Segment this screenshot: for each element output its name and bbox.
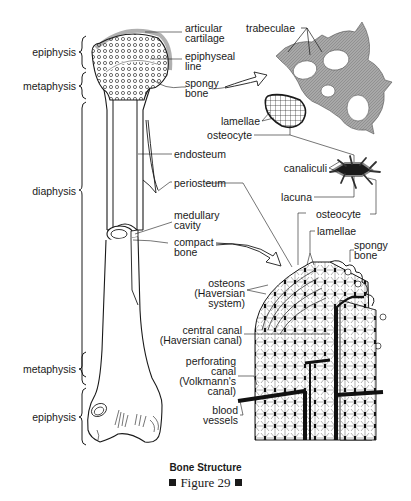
region-braces	[79, 36, 86, 445]
figure-number-label: Figure 29	[180, 475, 230, 490]
label-perforating-canal: perforating canal (Volkmann's canal)	[170, 356, 236, 396]
label-epiphyseal-line: epiphyseal line	[185, 51, 235, 71]
label-periosteum: periosteum	[174, 178, 226, 188]
label-metaphysis-bottom: metaphysis	[10, 364, 76, 374]
figure-number: Figure 29	[0, 475, 411, 491]
compact-bone-detail	[205, 183, 386, 440]
label-central-canal: central canal (Haversian canal)	[150, 325, 242, 345]
label-diaphysis: diaphysis	[20, 186, 76, 196]
label-osteocyte-spongy: osteocyte	[190, 130, 252, 140]
figure-title: Bone Structure	[0, 462, 411, 473]
label-osteons: osteons (Haversian system)	[178, 278, 245, 308]
square-bullet-icon	[235, 479, 242, 486]
label-lamellae-spongy: lamellae	[200, 116, 260, 126]
bone-structure-diagram: epiphysis metaphysis diaphysis metaphysi…	[0, 0, 411, 501]
label-osteocyte-cell: osteocyte	[316, 209, 361, 219]
label-spongy-bone-compact: spongy bone	[354, 240, 388, 260]
label-epiphysis-top: epiphysis	[20, 47, 76, 57]
label-lacuna: lacuna	[260, 192, 312, 202]
label-spongy-bone: spongy bone	[185, 78, 219, 98]
label-canaliculi: canaliculi	[260, 163, 327, 173]
label-compact-bone: compact bone	[174, 237, 214, 257]
label-metaphysis-top: metaphysis	[10, 81, 76, 91]
label-articular-cartilage: articular cartilage	[185, 23, 225, 43]
square-bullet-icon	[169, 479, 176, 486]
upper-bone	[92, 31, 170, 230]
label-blood-vessels: blood vessels	[190, 405, 238, 425]
trabeculae-detail	[225, 22, 392, 166]
label-medullary-cavity: medullary cavity	[174, 210, 220, 230]
label-epiphysis-bottom: epiphysis	[20, 412, 76, 422]
label-trabeculae: trabeculae	[246, 23, 295, 33]
label-endosteum: endosteum	[174, 149, 226, 159]
label-lamellae-compact: lamellae	[317, 226, 356, 236]
